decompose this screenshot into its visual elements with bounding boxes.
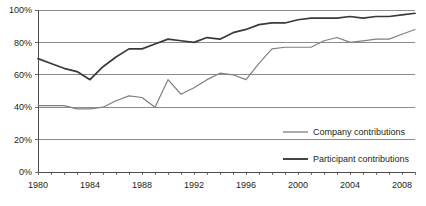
- y-tick-label: 60%: [14, 70, 32, 80]
- series-line-company: [38, 29, 415, 108]
- y-tick-label: 0%: [19, 167, 32, 177]
- x-tick-label: 2000: [288, 180, 308, 190]
- legend-label-participant: Participant contributions: [313, 154, 410, 164]
- x-tick-label: 1988: [132, 180, 152, 190]
- y-tick-label: 100%: [9, 5, 32, 15]
- y-tick-label: 20%: [14, 135, 32, 145]
- x-tick-label: 2004: [340, 180, 360, 190]
- x-tick-label: 2008: [392, 180, 412, 190]
- chart-container: 0%20%40%60%80%100% 198019841988199219962…: [0, 0, 426, 206]
- gridlines-group: [38, 10, 415, 172]
- chart-legend: Company contributionsParticipant contrib…: [283, 127, 410, 164]
- y-tick-label: 80%: [14, 38, 32, 48]
- series-line-participant: [38, 13, 415, 79]
- y-tick-label: 40%: [14, 102, 32, 112]
- y-axis: 0%20%40%60%80%100%: [9, 5, 38, 177]
- legend-label-company: Company contributions: [313, 127, 406, 137]
- line-chart: 0%20%40%60%80%100% 198019841988199219962…: [0, 0, 426, 206]
- x-tick-label: 1984: [80, 180, 100, 190]
- x-tick-label: 1992: [184, 180, 204, 190]
- x-tick-label: 1996: [236, 180, 256, 190]
- series-group: [38, 13, 415, 109]
- x-tick-label: 1980: [28, 180, 48, 190]
- x-axis: 19801984198819921996200020042008: [28, 172, 415, 190]
